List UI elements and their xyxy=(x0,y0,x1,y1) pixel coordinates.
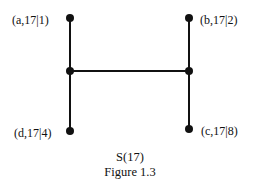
node-b-label: (b,17|2) xyxy=(200,13,237,27)
diagram-title: S(17) xyxy=(0,150,260,164)
node-right-junction xyxy=(185,67,193,75)
node-a-label: (a,17|1) xyxy=(12,13,49,27)
node-b xyxy=(185,14,193,22)
node-d xyxy=(66,127,74,135)
node-left-junction xyxy=(66,67,74,75)
figure-caption: Figure 1.3 xyxy=(0,165,260,179)
node-a xyxy=(66,14,74,22)
node-d-label: (d,17|4) xyxy=(14,126,51,140)
node-c xyxy=(185,125,193,133)
node-c-label: (c,17|8) xyxy=(201,124,238,138)
